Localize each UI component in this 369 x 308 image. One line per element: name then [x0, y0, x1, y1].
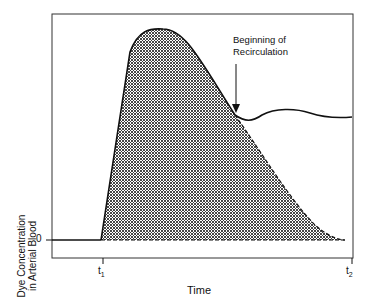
t2-subscript: 2 — [349, 271, 353, 278]
shaded-area — [101, 29, 345, 240]
chart-canvas — [0, 0, 369, 308]
annotation-line-1: Beginning of — [233, 34, 288, 46]
annotation-recirculation: Beginning of Recirculation — [233, 34, 288, 58]
t1-subscript: 1 — [101, 271, 105, 278]
x-tick-label-t2: t2 — [346, 265, 353, 278]
y-axis-title-line-2: in Arterial Blood — [27, 196, 38, 308]
y-axis-title-line-1: Dye Concentration — [16, 196, 27, 308]
x-axis-title: Time — [187, 284, 211, 296]
x-tick-label-t1: t1 — [98, 265, 105, 278]
annotation-line-2: Recirculation — [233, 46, 288, 58]
